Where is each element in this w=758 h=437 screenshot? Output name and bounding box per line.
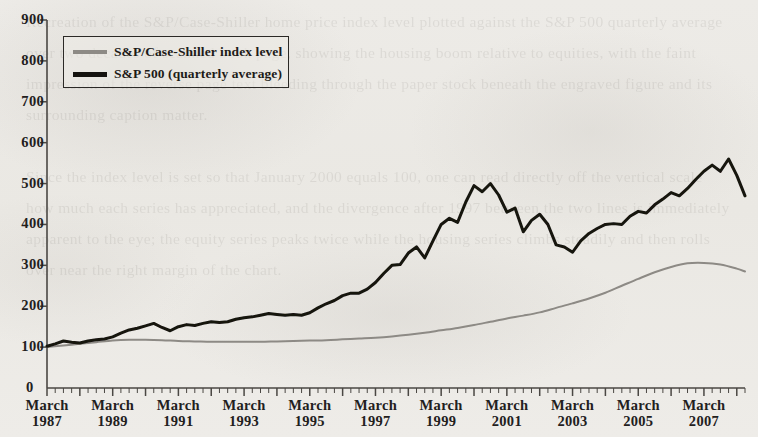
x-axis-tick-marks (47, 388, 745, 396)
chart-legend: S&P/Case-Shiller index level S&P 500 (qu… (63, 36, 289, 88)
series-line-sp500 (47, 159, 745, 346)
y-tick-label: 800 (0, 52, 44, 69)
line-chart: 100200300400500600700800900 March1987Mar… (0, 0, 758, 437)
y-tick-label: 400 (0, 215, 44, 232)
y-tick-label: 600 (0, 134, 44, 151)
y-tick-label: 100 (0, 338, 44, 355)
legend-swatch-case-shiller (73, 50, 107, 54)
series-line-case-shiller (47, 263, 745, 347)
x-tick-label-year: 2007 (664, 413, 744, 429)
legend-label-sp500: S&P 500 (quarterly average) (114, 66, 282, 82)
y-tick-label: 900 (0, 11, 44, 28)
axis-origin-label: 0 (26, 379, 33, 396)
legend-entry-case-shiller: S&P/Case-Shiller index level (73, 41, 282, 63)
y-tick-label: 700 (0, 93, 44, 110)
y-tick-label: 300 (0, 256, 44, 273)
legend-label-case-shiller: S&P/Case-Shiller index level (114, 44, 282, 60)
y-tick-label: 200 (0, 297, 44, 314)
x-tick-label-month: March (664, 397, 744, 413)
legend-entry-sp500: S&P 500 (quarterly average) (73, 63, 282, 85)
legend-swatch-sp500 (73, 72, 107, 77)
x-tick-label: March2007 (664, 397, 744, 429)
y-tick-label: 500 (0, 175, 44, 192)
